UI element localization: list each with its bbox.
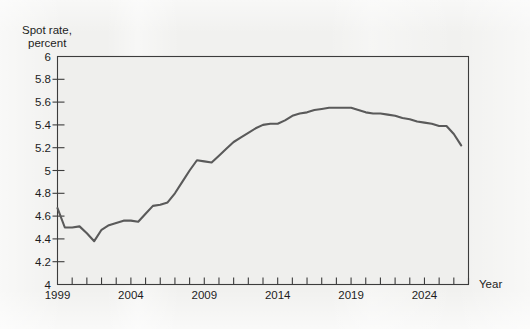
x-axis-tick-label: 2024 bbox=[412, 289, 438, 301]
plot-canvas bbox=[0, 0, 530, 329]
plot-background bbox=[58, 57, 469, 285]
y-axis-tick-label: 4.2 bbox=[10, 256, 51, 268]
y-axis-tick-label: 5.6 bbox=[10, 96, 51, 108]
y-axis-tick-label: 4.6 bbox=[10, 210, 51, 222]
y-axis-tick-label: 5.2 bbox=[10, 142, 51, 154]
x-axis-tick-label: 2019 bbox=[338, 289, 364, 301]
spot-rate-chart-figure: Spot rate,percent Year 44.24.44.64.855.2… bbox=[0, 0, 530, 329]
x-axis-tick-label: 1999 bbox=[45, 289, 71, 301]
x-axis-tick-label: 2014 bbox=[265, 289, 291, 301]
y-axis-tick-label: 4.8 bbox=[10, 187, 51, 199]
y-axis-tick-label: 4.4 bbox=[10, 233, 51, 245]
y-axis-tick-label: 6 bbox=[10, 51, 51, 63]
y-axis-tick-label: 5 bbox=[10, 165, 51, 177]
y-axis-tick-label: 5.8 bbox=[10, 73, 51, 85]
x-axis-tick-label: 2009 bbox=[191, 289, 217, 301]
x-axis-tick-label: 2004 bbox=[118, 289, 144, 301]
y-axis-tick-label: 5.4 bbox=[10, 119, 51, 131]
